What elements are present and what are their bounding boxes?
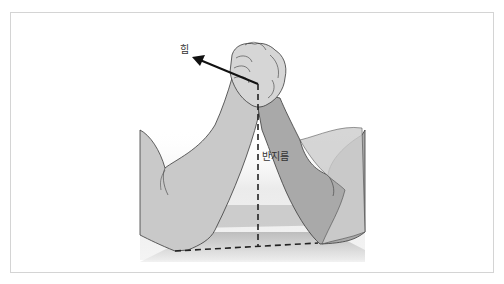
force-label: 힘 [180,45,189,55]
arm-wrestling-illustration [0,0,504,284]
radius-label: 반지름 [262,152,289,162]
